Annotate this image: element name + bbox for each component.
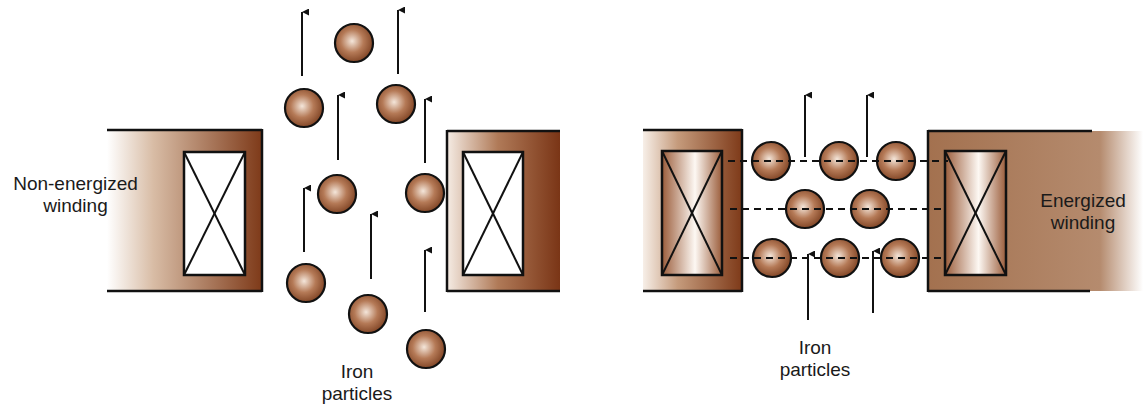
coil-icon — [184, 152, 245, 275]
particle-icon — [349, 295, 387, 333]
particle-icon — [285, 89, 323, 127]
iron-particles — [285, 24, 445, 368]
left-core — [643, 129, 742, 292]
right-core — [447, 130, 560, 292]
coil-icon — [662, 151, 722, 275]
particle-icon — [377, 85, 415, 123]
non-energized-panel — [107, 10, 560, 368]
iron-particles-label-right: Iron particles — [770, 337, 860, 381]
particle-icon — [407, 330, 445, 368]
iron-particles-label-left: Iron particles — [312, 361, 402, 405]
coil-icon — [463, 152, 523, 275]
magnetic-winding-diagram — [0, 0, 1143, 414]
energized-winding-label: Energized winding — [1028, 190, 1138, 234]
particle-icon — [287, 264, 325, 302]
particle-icon — [406, 174, 444, 212]
coil-icon — [945, 151, 1006, 275]
particle-icon — [335, 24, 373, 62]
non-energized-winding-label: Non-energized winding — [8, 173, 143, 217]
iron-particles — [752, 142, 919, 277]
particle-icon — [318, 175, 356, 213]
